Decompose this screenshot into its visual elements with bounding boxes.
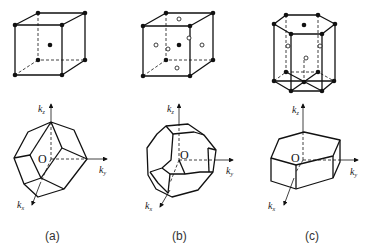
figure: kz ky kx O (a) [0,0,373,251]
kz-label: kz [167,103,174,115]
brillouin-zone-a: kz ky kx O [14,103,107,211]
ky-label: ky [350,166,357,178]
kz-label: kz [292,104,299,116]
bcc-unit-cell [13,11,88,78]
kx-label: kx [145,200,152,212]
caption-b: (b) [172,229,187,243]
ky-label: ky [226,165,233,177]
caption-c: (c) [305,229,319,243]
fcc-unit-cell [141,11,216,79]
kx-label: kx [268,200,275,212]
origin-label: O [38,152,47,166]
brillouin-zone-c: kz ky kx O [268,104,358,212]
brillouin-zone-b: kz ky kx O [145,103,233,212]
kz-label: kz [38,103,45,115]
caption-a: (a) [45,229,60,243]
origin-label: O [291,151,300,165]
kx-label: kx [17,199,24,211]
ky-label: ky [99,164,106,176]
origin-label: O [180,148,189,162]
hcp-unit-cell [272,13,338,94]
diagram-canvas: kz ky kx O (a) [0,0,373,251]
